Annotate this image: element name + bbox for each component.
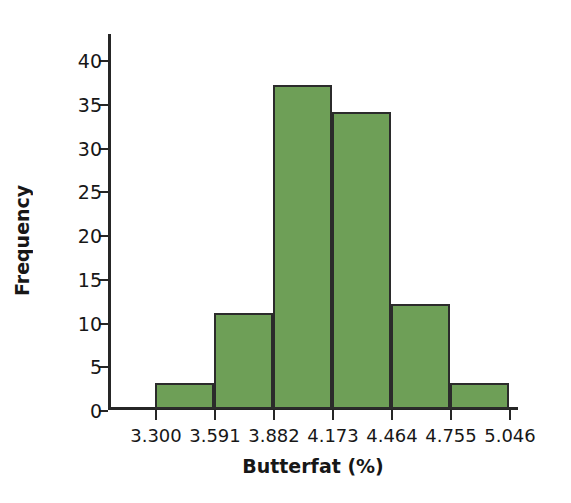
x-tick-label-1: 3.300	[130, 425, 182, 446]
x-tick-label-6: 4.755	[425, 425, 477, 446]
y-tick-label-25: 25	[78, 181, 102, 203]
plot-area: 0 5 10 15 20 25 30 35 40 3.300 3.591 3.8…	[108, 34, 518, 410]
y-tick-label-40: 40	[78, 50, 102, 72]
bar-bin-3	[273, 85, 332, 409]
y-axis-label: Frequency	[2, 150, 42, 330]
y-tick-label-20: 20	[78, 225, 102, 247]
cropped-caption-fragment	[0, 492, 571, 503]
y-tick-label-30: 30	[78, 138, 102, 160]
bar-bin-6	[450, 383, 509, 409]
y-tick-label-0: 0	[90, 400, 102, 422]
y-tick-label-5: 5	[90, 356, 102, 378]
y-axis-spine	[108, 34, 111, 410]
y-tick-label-15: 15	[78, 269, 102, 291]
x-tick-label-3: 3.882	[248, 425, 300, 446]
y-tick-label-35: 35	[78, 94, 102, 116]
bar-bin-1	[155, 383, 214, 409]
x-tick-label-2: 3.591	[189, 425, 241, 446]
x-tick-1	[155, 410, 157, 420]
x-tick-4	[332, 410, 334, 420]
x-tick-label-7: 5.046	[484, 425, 536, 446]
x-tick-6	[450, 410, 452, 420]
bar-bin-5	[391, 304, 450, 409]
x-tick-label-5: 4.464	[366, 425, 418, 446]
bar-bin-2	[214, 313, 273, 409]
bar-bin-4	[332, 112, 391, 409]
x-axis-label: Butterfat (%)	[108, 455, 518, 477]
x-tick-label-4: 4.173	[307, 425, 359, 446]
histogram-figure: Frequency 0 5 10 15 20 25 30 35 40 3.300…	[0, 0, 571, 503]
x-tick-7	[509, 410, 511, 420]
x-tick-5	[391, 410, 393, 420]
x-tick-3	[273, 410, 275, 420]
x-tick-2	[214, 410, 216, 420]
y-tick-label-10: 10	[78, 313, 102, 335]
